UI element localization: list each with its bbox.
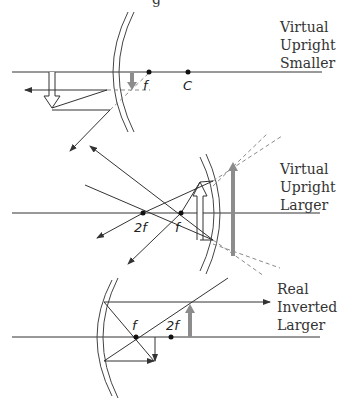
mirror-ray-diagrams: g f C Virtual Upright Smaller bbox=[0, 0, 348, 404]
caption-line-2: Upright bbox=[280, 37, 336, 53]
point-label-c: C bbox=[183, 78, 193, 93]
point-label-2f: 2f bbox=[134, 220, 149, 235]
caption-line-1: Virtual bbox=[279, 161, 329, 177]
image-arrow bbox=[228, 162, 238, 256]
caption-line-1: Real bbox=[277, 281, 309, 297]
point-label-f: f bbox=[132, 318, 139, 333]
point-label-2f: 2f bbox=[166, 318, 181, 333]
mirror-inner-arc bbox=[206, 154, 220, 274]
virtual-extension-3 bbox=[213, 240, 264, 276]
2f-point bbox=[169, 335, 174, 340]
point-label-f: f bbox=[143, 78, 150, 93]
2f-point bbox=[141, 211, 146, 216]
caption-line-3: Smaller bbox=[280, 55, 335, 71]
focal-point bbox=[134, 335, 139, 340]
point-label-f: f bbox=[175, 220, 182, 235]
virtual-extension-1 bbox=[213, 136, 282, 181]
focal-point bbox=[179, 211, 184, 216]
title-fragment: g bbox=[152, 0, 161, 7]
caption-line-3: Larger bbox=[280, 197, 329, 213]
reflected-ray-2 bbox=[70, 110, 110, 151]
reflected-through-f bbox=[104, 302, 154, 361]
caption-line-2: Upright bbox=[280, 179, 336, 195]
diagram-convex-mirror: f C Virtual Upright Smaller bbox=[12, 12, 336, 151]
image-arrow bbox=[127, 73, 137, 90]
caption-line-1: Virtual bbox=[279, 19, 329, 35]
diagram-concave-between-f-2f: f 2f Real Inverted Larger bbox=[12, 278, 337, 398]
virtual-extension-2 bbox=[213, 133, 268, 186]
caption-line-2: Inverted bbox=[277, 299, 337, 315]
object-arrow bbox=[185, 304, 195, 337]
dummy bbox=[90, 145, 213, 181]
caption-line-3: Larger bbox=[277, 317, 326, 333]
virtual-extension-4 bbox=[213, 244, 280, 268]
focal-point bbox=[147, 70, 152, 75]
incident-ray-1 bbox=[52, 90, 107, 108]
center-point bbox=[186, 70, 191, 75]
diagram-concave-inside-f: 2f f Virtual Upright Larger bbox=[12, 133, 336, 276]
